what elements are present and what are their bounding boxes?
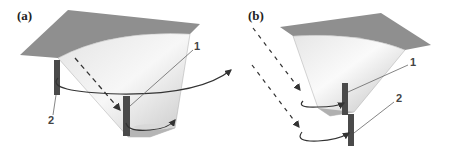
panel-label-b: (b) xyxy=(248,8,264,24)
dashed-arrow-lower-b xyxy=(252,65,299,127)
rod-2-a xyxy=(54,60,60,95)
part-label-2-b: 2 xyxy=(396,92,402,104)
part-label-2-a: 2 xyxy=(48,114,54,126)
rod-2-b xyxy=(348,114,354,146)
leader-2-b xyxy=(354,102,394,133)
figure: (a) (b) 1 2 1 2 xyxy=(0,0,449,152)
funnel-b xyxy=(293,35,405,116)
rod-1-a xyxy=(123,96,130,136)
dashed-arrow-upper-b xyxy=(253,28,300,90)
part-label-1-b: 1 xyxy=(410,56,416,68)
curved-arrow-rod2-b xyxy=(300,132,349,141)
leader-2-a xyxy=(53,95,56,115)
rod-1-b xyxy=(342,83,348,115)
panel-label-a: (a) xyxy=(17,8,32,24)
part-label-1-a: 1 xyxy=(194,40,200,52)
panel-b xyxy=(252,13,431,146)
